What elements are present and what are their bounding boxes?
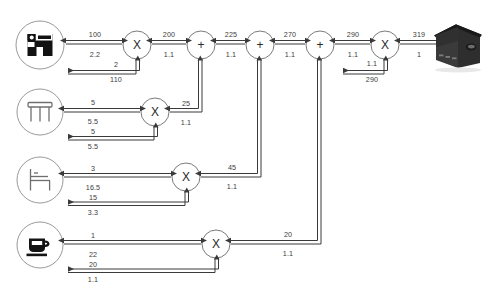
edge-label-m2-s1-top: 25 (182, 100, 190, 107)
node-multiply-table[interactable]: X (151, 105, 159, 119)
node-multiply-plant[interactable]: X (381, 38, 389, 52)
diagram-vector-layer (0, 0, 495, 291)
edge-label-m1-feedback-top: 2 (114, 61, 118, 68)
edge-label-armchair-m1-top: 100 (89, 31, 101, 38)
edge-label-m1-s1-bottom: 1.1 (164, 51, 174, 58)
node-multiply-chair[interactable]: X (182, 170, 190, 184)
edge-label-s2-s3-top: 270 (284, 31, 296, 38)
node-sum-3[interactable]: + (316, 38, 323, 52)
edge-label-m5-plant-top: 319 (413, 31, 425, 38)
edge-label-s1-s2-top: 225 (225, 31, 237, 38)
factory-building-shape (434, 24, 482, 72)
edge-label-s1-s2-bottom: 1.1 (226, 51, 236, 58)
edge-label-s3-m5-bottom: 1.1 (348, 51, 358, 58)
edge-label-m4-feedback-top: 20 (89, 261, 97, 268)
edge-label-chair-m3-bottom: 16.5 (86, 184, 100, 191)
edge-label-m3-s2-bottom: 1.1 (227, 183, 237, 190)
edge-label-s3-m5-top: 290 (347, 31, 359, 38)
edge-label-m2-feedback-bottom: 5.5 (88, 143, 98, 150)
edge-label-m5-feedback-top: 1.1 (367, 60, 377, 67)
edge-label-cup-m4-bottom: 22 (89, 251, 97, 258)
diagram-canvas: X X X X + + + X 100 2.2 200 1.1 225 1.1 … (0, 0, 495, 291)
edge-label-m4-s3-top: 20 (284, 231, 292, 238)
edge-label-m4-s3-bottom: 1.1 (283, 250, 293, 257)
edge-label-m2-feedback-top: 5 (91, 128, 95, 135)
edge-label-table-m2-top: 5 (91, 99, 95, 106)
edge-label-table-m2-bottom: 5.5 (88, 118, 98, 125)
node-multiply-cup[interactable]: X (212, 237, 220, 251)
edge-label-m2-s1-bottom: 1.1 (181, 119, 191, 126)
edge-label-s2-s3-bottom: 1.1 (285, 51, 295, 58)
node-sum-1[interactable]: + (197, 38, 204, 52)
edge-label-m3-feedback-top: 15 (89, 194, 97, 201)
edge-label-m3-s2-top: 45 (228, 164, 236, 171)
edge-label-m1-s1-top: 200 (163, 31, 175, 38)
edge-label-m3-feedback-bottom: 3.3 (88, 209, 98, 216)
edge-label-m4-feedback-bottom: 1.1 (88, 276, 98, 283)
node-sum-2[interactable]: + (256, 38, 263, 52)
table-icon-shape (28, 103, 52, 122)
edge-label-cup-m4-top: 1 (91, 232, 95, 239)
node-multiply-armchair[interactable]: X (133, 38, 141, 52)
edge-label-armchair-m1-bottom: 2.2 (90, 51, 100, 58)
edge-label-m5-plant-bottom: 1 (417, 51, 421, 58)
edge-label-m5-feedback-bottom: 290 (366, 76, 378, 83)
edge-label-chair-m3-top: 3 (91, 165, 95, 172)
edge-label-m1-feedback-bottom: 110 (110, 76, 122, 83)
